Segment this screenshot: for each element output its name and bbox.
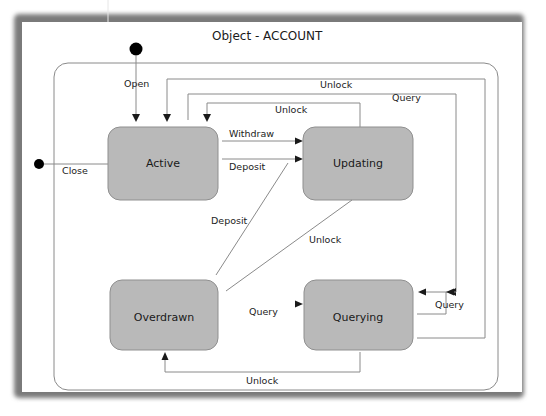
transition-unlock-bottom: Unlock <box>246 375 279 386</box>
transition-unlock-diagonal: Unlock <box>309 234 342 245</box>
transition-unlock-outer: Unlock <box>320 79 353 90</box>
state-updating: Updating <box>303 127 413 200</box>
transition-open: Open <box>124 78 149 89</box>
transition-unlock-inner: Unlock <box>275 104 308 115</box>
state-active: Active <box>108 127 218 200</box>
state-overdrawn: Overdrawn <box>110 280 218 350</box>
transition-deposit-overdrawn: Deposit <box>211 215 248 226</box>
transition-query: Query <box>249 306 278 317</box>
svg-text:Active: Active <box>146 157 180 170</box>
initial-state-icon <box>130 43 143 56</box>
final-state-icon <box>34 159 44 169</box>
diagram-title: Object - ACCOUNT <box>212 29 323 43</box>
state-diagram: Object - ACCOUNT Open Close Unlock Query… <box>0 0 546 416</box>
state-querying: Querying <box>304 280 413 350</box>
transition-close: Close <box>62 165 88 176</box>
svg-text:Overdrawn: Overdrawn <box>134 311 195 324</box>
transition-withdraw: Withdraw <box>229 128 274 139</box>
transition-deposit: Deposit <box>229 161 266 172</box>
svg-text:Querying: Querying <box>333 311 383 324</box>
transition-query-outer: Query <box>392 92 421 103</box>
svg-text:Updating: Updating <box>333 157 383 170</box>
transition-query-self: Query <box>435 299 464 310</box>
